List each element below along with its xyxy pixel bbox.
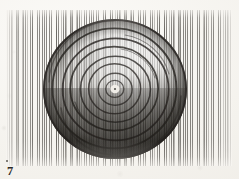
figure-number-caption: 7 [7, 165, 13, 178]
figure-plate: 7 [0, 0, 239, 179]
ink-speck [6, 160, 8, 162]
artwork-area [6, 10, 232, 166]
hatching-density-mask [6, 10, 232, 166]
